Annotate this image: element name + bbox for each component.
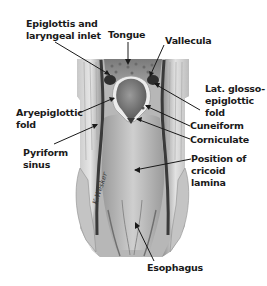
label-position-of-cricoid-lamina: Position of cricoid lamina bbox=[191, 153, 246, 189]
label-vallecula: Vallecula bbox=[165, 35, 211, 47]
label-lat-glossoepiglottic-fold: Lat. glosso- epiglottic fold bbox=[205, 83, 265, 119]
label-epiglottis-laryngeal-inlet: Epiglottis and laryngeal inlet bbox=[26, 18, 101, 42]
anatomy-figure: K.Wesker Epiglottis and lary bbox=[0, 0, 267, 286]
label-pyriform-sinus: Pyriform sinus bbox=[23, 147, 68, 171]
pharynx-body bbox=[76, 59, 189, 257]
label-esophagus: Esophagus bbox=[147, 262, 203, 274]
label-tongue: Tongue bbox=[108, 29, 145, 41]
label-corniculate: Corniculate bbox=[190, 134, 249, 146]
label-cuneiform: Cuneiform bbox=[190, 120, 244, 132]
label-aryepiglottic-fold: Aryepiglottic fold bbox=[16, 107, 83, 131]
